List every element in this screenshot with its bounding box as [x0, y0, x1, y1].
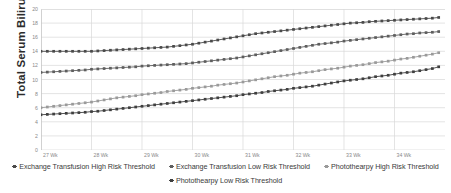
- y-tick-label: 20: [32, 6, 38, 12]
- y-tick-label: 18: [32, 20, 38, 26]
- legend-row: Photothearpy Low Risk Threshold: [0, 174, 451, 188]
- y-tick-label: 6: [35, 105, 38, 111]
- legend-marker-icon: [324, 164, 329, 169]
- plot-canvas: [41, 9, 445, 150]
- x-tick-label: 28 Wk: [94, 152, 109, 158]
- y-tick-label: 4: [35, 119, 38, 125]
- legend-marker-icon: [12, 164, 17, 169]
- legend-marker-icon: [169, 164, 174, 169]
- legend-label: Photothearpy High Risk Threshold: [331, 160, 439, 173]
- bilirubin-threshold-chart: Total Serum Bilirubin (mg/dL) 0246810121…: [0, 0, 451, 193]
- x-tick-label: 31 Wk: [245, 152, 260, 158]
- x-tick-label: 33 Wk: [346, 152, 361, 158]
- legend-item[interactable]: Exchange Transfusion High Risk Threshold: [12, 160, 155, 174]
- x-tick-label: 27 Wk: [43, 152, 58, 158]
- x-tick-label: 29 Wk: [144, 152, 159, 158]
- y-axis-title: Total Serum Bilirubin (mg/dL): [10, 0, 32, 98]
- y-tick-label: 0: [35, 147, 38, 153]
- legend-label: Exchange Transfusion Low Risk Threshold: [176, 160, 310, 173]
- legend-label: Exchange Transfusion High Risk Threshold: [19, 160, 155, 173]
- legend-marker-icon: [169, 178, 174, 183]
- y-tick-label: 14: [32, 48, 38, 54]
- plot-area: 02468101214161820 27 Wk28 Wk29 Wk30 Wk31…: [41, 9, 445, 150]
- legend-label: Photothearpy Low Risk Threshold: [176, 174, 282, 187]
- x-tick-label: 34 Wk: [397, 152, 412, 158]
- y-tick-label: 16: [32, 34, 38, 40]
- legend-item[interactable]: Photothearpy Low Risk Threshold: [169, 174, 282, 188]
- y-tick-label: 10: [32, 77, 38, 83]
- y-tick-label: 2: [35, 133, 38, 139]
- legend-item[interactable]: Exchange Transfusion Low Risk Threshold: [169, 160, 310, 174]
- legend-row: Exchange Transfusion High Risk Threshold…: [0, 160, 451, 174]
- y-tick-label: 8: [35, 91, 38, 97]
- x-tick-label: 30 Wk: [195, 152, 210, 158]
- y-tick-label: 12: [32, 62, 38, 68]
- chart-legend: Exchange Transfusion High Risk Threshold…: [0, 160, 451, 188]
- x-tick-label: 32 Wk: [296, 152, 311, 158]
- legend-item[interactable]: Photothearpy High Risk Threshold: [324, 160, 439, 174]
